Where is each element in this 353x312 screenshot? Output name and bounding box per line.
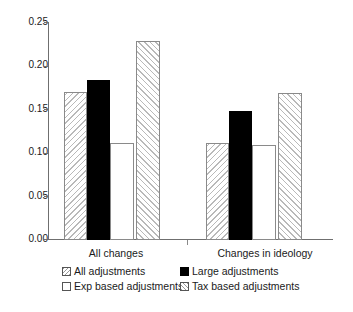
x-axis-category-separator (187, 240, 188, 245)
y-tick-mark (44, 66, 48, 67)
legend-label: Exp based adjustments (74, 281, 183, 292)
legend-label: Large adjustments (192, 266, 278, 277)
legend-item-all-adjustments: All adjustments (62, 266, 180, 277)
x-axis-category-label: Changes in ideology (200, 247, 330, 259)
y-tick-mark (44, 153, 48, 154)
chart-legend: All adjustments Large adjustments Exp ba… (62, 266, 330, 296)
bar-changes-in-ideology-tax-based-adjustments (278, 93, 302, 240)
bar-changes-in-ideology-large-adjustments (229, 111, 252, 240)
y-tick-mark (44, 109, 48, 110)
x-axis-category-label: All changes (60, 247, 172, 259)
legend-row: Exp based adjustments Tax based adjustme… (62, 281, 330, 296)
bar-chart: 0.25 0.20 0.15 0.10 0.05 0.00 All change… (0, 0, 353, 312)
y-tick-label: 0.15 (6, 104, 48, 114)
legend-row: All adjustments Large adjustments (62, 266, 330, 281)
legend-label: Tax based adjustments (192, 281, 299, 292)
bar-changes-in-ideology-exp-based-adjustments (252, 145, 276, 240)
legend-label: All adjustments (74, 266, 145, 277)
bar-all-changes-large-adjustments (87, 80, 110, 240)
bar-changes-in-ideology-all-adjustments (206, 143, 229, 240)
legend-item-exp-based-adjustments: Exp based adjustments (62, 281, 180, 292)
y-tick-mark (44, 196, 48, 197)
y-tick-label: 0.00 (6, 234, 48, 244)
y-tick-label: 0.20 (6, 60, 48, 70)
legend-swatch-hatch-forwardslash-icon (180, 282, 189, 291)
y-tick-mark (44, 239, 48, 240)
legend-item-large-adjustments: Large adjustments (180, 266, 330, 277)
legend-item-tax-based-adjustments: Tax based adjustments (180, 281, 330, 292)
y-axis-line (48, 22, 49, 240)
bar-all-changes-all-adjustments (64, 92, 87, 240)
bar-all-changes-exp-based-adjustments (110, 143, 134, 240)
legend-swatch-hatch-backslash-icon (62, 267, 71, 276)
y-tick-mark (44, 22, 48, 23)
y-tick-label: 0.10 (6, 147, 48, 157)
legend-swatch-empty-white-icon (62, 282, 71, 291)
legend-swatch-solid-black-icon (180, 267, 189, 276)
bar-all-changes-tax-based-adjustments (136, 41, 160, 240)
y-tick-label: 0.25 (6, 17, 48, 27)
plot-area (48, 22, 333, 240)
y-tick-label: 0.05 (6, 191, 48, 201)
